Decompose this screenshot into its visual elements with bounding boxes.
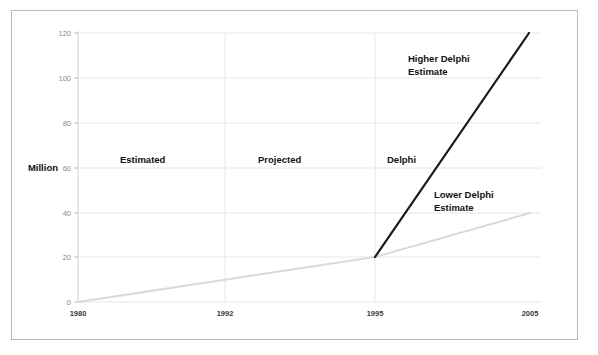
y-tick-label-40: 40	[63, 209, 71, 218]
y-tick-label-80: 80	[63, 119, 71, 128]
y-tick-label-60: 60	[63, 164, 71, 173]
y-tick-labels: 0 20 40 60 80 100 120	[58, 29, 71, 307]
y-tick-label-0: 0	[67, 298, 71, 307]
delphi-estimate-line-chart: 0 20 40 60 80 100 120 Million 1980 1992 …	[0, 0, 598, 355]
x-tick-labels: 1980 1992 1995 2005	[70, 309, 539, 318]
y-axis-title: Million	[28, 162, 58, 173]
annotation-estimated: Estimated	[120, 154, 166, 165]
annotation-projected: Projected	[258, 154, 301, 165]
x-tick-label-2005: 2005	[522, 309, 539, 318]
y-gridlines	[78, 33, 541, 302]
y-tick-label-20: 20	[63, 253, 71, 262]
x-tick-label-1995: 1995	[367, 309, 384, 318]
annotation-higher-delphi-estimate-line2: Estimate	[408, 66, 448, 77]
annotation-lower-delphi-estimate-line1: Lower Delphi	[434, 189, 494, 200]
annotation-lower-delphi-estimate-line2: Estimate	[434, 202, 474, 213]
x-tick-label-1980: 1980	[70, 309, 87, 318]
y-tick-label-120: 120	[58, 29, 71, 38]
annotation-delphi: Delphi	[387, 154, 416, 165]
series-line-higher-delphi-estimate	[375, 33, 529, 257]
y-axis	[74, 31, 78, 303]
x-tick-label-1992: 1992	[217, 309, 234, 318]
annotation-higher-delphi-estimate-line1: Higher Delphi	[408, 53, 470, 64]
chart-figure: 0 20 40 60 80 100 120 Million 1980 1992 …	[0, 0, 598, 355]
y-tick-label-100: 100	[58, 74, 71, 83]
